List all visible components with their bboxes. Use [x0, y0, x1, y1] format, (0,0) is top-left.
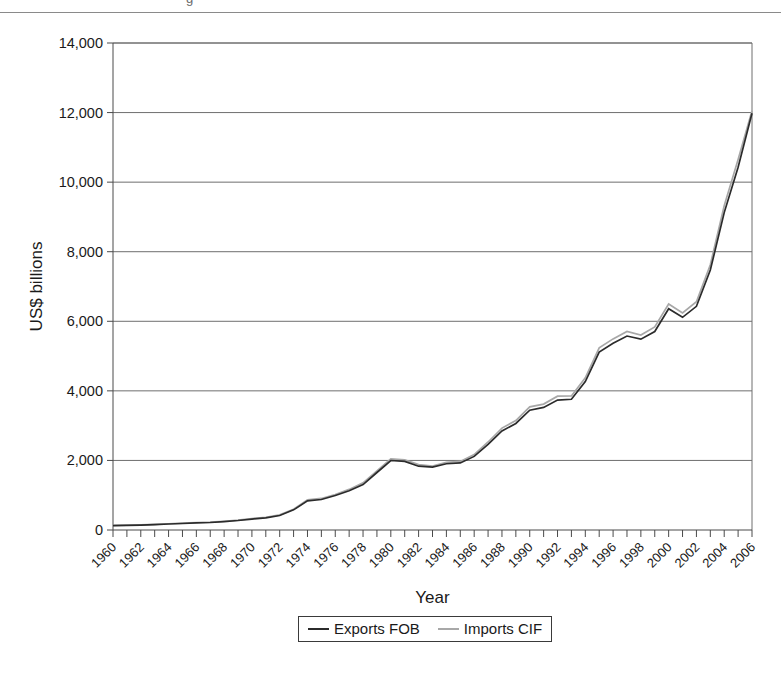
- chart-svg: 02,0004,0006,0008,00010,00012,00014,0001…: [0, 0, 781, 675]
- x-axis-tick-label: 1966: [171, 540, 202, 571]
- legend-line-swatch: [438, 628, 459, 630]
- x-axis-tick-label: 1962: [116, 540, 147, 571]
- legend-line-swatch: [308, 628, 329, 630]
- x-axis-tick-label: 2006: [727, 540, 758, 571]
- series-line-exports-fob: [113, 113, 752, 525]
- x-axis-tick-label: 1994: [560, 540, 591, 571]
- x-axis-tick-label: 2002: [671, 540, 702, 571]
- x-axis-tick-label: 1996: [588, 540, 619, 571]
- x-axis-tick-label: 1982: [394, 540, 425, 571]
- trade-line-chart: 02,0004,0006,0008,00010,00012,00014,0001…: [0, 0, 781, 675]
- x-axis-tick-label: 1964: [144, 540, 175, 571]
- y-axis-tick-label: 12,000: [59, 105, 103, 121]
- x-axis-tick-label: 1984: [421, 540, 452, 571]
- y-axis-tick-label: 10,000: [59, 174, 103, 190]
- y-axis-tick-label: 14,000: [59, 35, 103, 51]
- legend-label: Imports CIF: [464, 620, 542, 637]
- y-axis-title: US$ billions: [27, 242, 46, 332]
- x-axis-tick-label: 2004: [699, 540, 730, 571]
- x-axis-tick-label: 1980: [366, 540, 397, 571]
- legend-entry: Imports CIF: [438, 620, 542, 637]
- chart-legend: Exports FOBImports CIF: [298, 616, 552, 642]
- x-axis-tick-label: 1998: [616, 540, 647, 571]
- x-axis-tick-label: 1974: [283, 540, 314, 571]
- y-axis-tick-label: 0: [95, 522, 103, 538]
- x-axis-tick-label: 1990: [505, 540, 536, 571]
- y-axis-tick-label: 8,000: [67, 244, 103, 260]
- y-axis-tick-label: 4,000: [67, 383, 103, 399]
- series-line-imports-cif: [113, 111, 752, 526]
- y-axis-tick-label: 2,000: [67, 452, 103, 468]
- legend-entry: Exports FOB: [308, 620, 420, 637]
- x-axis-tick-label: 1970: [227, 540, 258, 571]
- x-axis-tick-label: 1978: [338, 540, 369, 571]
- x-axis-tick-label: 1972: [255, 540, 286, 571]
- x-axis-tick-label: 1960: [88, 540, 119, 571]
- y-axis-tick-label: 6,000: [67, 313, 103, 329]
- x-axis-tick-label: 2000: [644, 540, 675, 571]
- x-axis-tick-label: 1986: [449, 540, 480, 571]
- x-axis-tick-label: 1992: [533, 540, 564, 571]
- x-axis-tick-label: 1976: [310, 540, 341, 571]
- x-axis-tick-label: 1968: [199, 540, 230, 571]
- legend-label: Exports FOB: [334, 620, 420, 637]
- x-axis-title: Year: [415, 588, 450, 607]
- x-axis-tick-label: 1988: [477, 540, 508, 571]
